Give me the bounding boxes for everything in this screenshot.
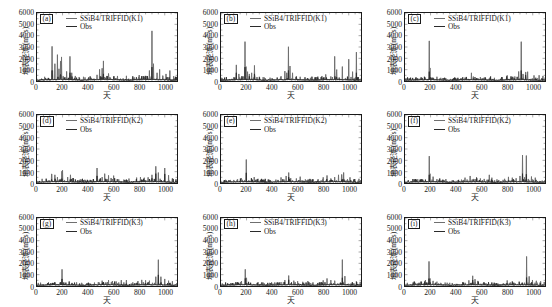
y-tick: 5000: [203, 121, 218, 130]
y-tick: 3000: [203, 145, 218, 154]
legend-line-model: [66, 18, 77, 19]
y-tick-labels: 0100020003000400050006000: [12, 217, 34, 287]
x-tick: 400: [82, 185, 93, 194]
y-tick: 2000: [387, 156, 402, 165]
panel-g: 地表径流/(m3/s) 0100020003000400050006000 (g…: [0, 205, 184, 307]
y-tick: 3000: [19, 247, 34, 256]
series-model: [405, 256, 545, 285]
x-tick: 1000: [158, 288, 173, 297]
x-axis-label: 天: [36, 297, 178, 305]
panel-tag: (a): [40, 14, 53, 24]
legend-line-obs: [250, 231, 261, 232]
legend: SSiB4/TRIFFID(K2) Obs: [250, 116, 327, 133]
x-tick: 1000: [342, 185, 357, 194]
legend-label-model: SSiB4/TRIFFID(K1): [264, 15, 327, 22]
legend: SSiB4/TRIFFID(K3) Obs: [434, 219, 511, 236]
x-tick: 400: [450, 288, 461, 297]
panel-tag: (i): [408, 219, 420, 229]
panel-c: 地表径流/(m3/s) 0100020003000400050006000 (c…: [368, 0, 552, 102]
legend-label-obs: Obs: [80, 23, 92, 30]
y-tick: 5000: [19, 224, 34, 233]
x-tick: 200: [424, 83, 435, 92]
y-tick: 6000: [19, 110, 34, 119]
y-tick: 5000: [19, 121, 34, 130]
x-tick: 0: [34, 185, 38, 194]
y-tick: 1000: [203, 168, 218, 177]
x-tick: 400: [266, 288, 277, 297]
panel-grid: 地表径流/(m3/s) 0100020003000400050006000 (a…: [0, 0, 552, 307]
panel-h: 地表径流/(m3/s) 0100020003000400050006000 (h…: [184, 205, 368, 307]
x-tick: 200: [240, 288, 251, 297]
legend-label-obs: Obs: [264, 126, 276, 133]
y-tick-labels: 0100020003000400050006000: [380, 12, 402, 82]
x-axis-label: 天: [36, 92, 178, 100]
x-axis-label: 天: [404, 194, 546, 202]
panel-e: 地表径流/(m3/s) 0100020003000400050006000 (e…: [184, 102, 368, 204]
x-tick: 800: [134, 288, 145, 297]
panel-tag: (c): [408, 14, 421, 24]
y-tick: 2000: [19, 54, 34, 63]
x-tick: 400: [82, 288, 93, 297]
x-tick: 800: [502, 83, 513, 92]
y-tick: 3000: [387, 43, 402, 52]
x-tick: 0: [402, 288, 406, 297]
y-tick: 4000: [387, 133, 402, 142]
series-obs: [221, 67, 361, 80]
y-tick: 1000: [19, 270, 34, 279]
y-tick-labels: 0100020003000400050006000: [12, 114, 34, 184]
x-tick: 200: [56, 83, 67, 92]
y-tick: 4000: [19, 133, 34, 142]
panel-tag: (d): [40, 116, 54, 126]
panel-i: 地表径流/(m3/s) 0100020003000400050006000 (i…: [368, 205, 552, 307]
y-tick: 6000: [19, 8, 34, 17]
series-model: [405, 41, 545, 81]
y-tick: 4000: [203, 133, 218, 142]
x-tick: 200: [240, 83, 251, 92]
legend-line-model: [250, 120, 261, 121]
y-tick: 6000: [387, 8, 402, 17]
x-axis-label: 天: [220, 194, 362, 202]
y-tick: 1000: [19, 168, 34, 177]
x-tick: 400: [450, 185, 461, 194]
legend-line-obs: [434, 26, 445, 27]
legend-line-obs: [66, 129, 77, 130]
legend-line-model: [250, 18, 261, 19]
panel-tag: (h): [224, 219, 238, 229]
legend-label-model: SSiB4/TRIFFID(K1): [80, 15, 143, 22]
y-tick: 3000: [203, 43, 218, 52]
y-tick: 5000: [203, 224, 218, 233]
x-axis-label: 天: [220, 297, 362, 305]
legend: SSiB4/TRIFFID(K2) Obs: [434, 116, 511, 133]
x-tick: 0: [402, 185, 406, 194]
y-tick: 6000: [203, 110, 218, 119]
panel-tag: (f): [408, 116, 420, 126]
panel-b: 地表径流/(m3/s) 0100020003000400050006000 (b…: [184, 0, 368, 102]
x-axis-label: 天: [220, 92, 362, 100]
x-tick: 800: [318, 288, 329, 297]
legend-label-obs: Obs: [264, 228, 276, 235]
x-tick: 0: [402, 83, 406, 92]
x-tick: 200: [56, 288, 67, 297]
x-tick: 400: [266, 185, 277, 194]
legend: SSiB4/TRIFFID(K1) Obs: [66, 14, 143, 31]
legend-label-obs: Obs: [448, 228, 460, 235]
y-tick: 1000: [203, 66, 218, 75]
legend-label-model: SSiB4/TRIFFID(K3): [264, 219, 327, 226]
panel-tag: (e): [224, 116, 237, 126]
panel-tag: (b): [224, 14, 238, 24]
x-tick: 0: [218, 83, 222, 92]
y-tick: 3000: [19, 145, 34, 154]
legend-label-model: SSiB4/TRIFFID(K3): [80, 219, 143, 226]
x-tick: 800: [318, 185, 329, 194]
x-tick: 0: [218, 288, 222, 297]
legend-label-obs: Obs: [448, 126, 460, 133]
x-tick: 0: [218, 185, 222, 194]
panel-d: 地表径流/(m3/s) 0100020003000400050006000 (d…: [0, 102, 184, 204]
y-tick: 1000: [203, 270, 218, 279]
x-tick: 1000: [526, 83, 541, 92]
y-tick: 6000: [387, 212, 402, 221]
legend-label-model: SSiB4/TRIFFID(K2): [264, 117, 327, 124]
y-tick: 6000: [203, 8, 218, 17]
y-tick: 4000: [19, 31, 34, 40]
x-axis-label: 天: [36, 194, 178, 202]
